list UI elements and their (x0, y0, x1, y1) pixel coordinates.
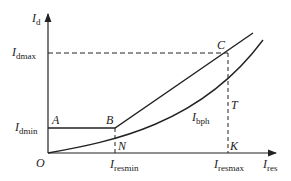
y-axis-label: Id (32, 12, 41, 27)
x-axis-label: Ires (263, 158, 278, 173)
idmin-label: Idmin (15, 121, 38, 136)
ibph-curve-label: Ibph (192, 111, 210, 126)
point-c-label: C (217, 39, 225, 51)
point-n-label: N (118, 140, 126, 152)
idmax-label: Idmax (12, 46, 36, 61)
point-t-label: T (231, 99, 238, 111)
point-a-label: A (52, 114, 59, 126)
iresmin-label: Iresmin (110, 158, 139, 173)
iresmax-label: Iresmax (214, 158, 244, 173)
point-b-label: B (106, 114, 113, 126)
diagram-canvas (0, 0, 291, 181)
unbalanced-current-curve (48, 40, 263, 153)
origin-label: O (36, 157, 45, 169)
point-k-label: K (230, 140, 238, 152)
